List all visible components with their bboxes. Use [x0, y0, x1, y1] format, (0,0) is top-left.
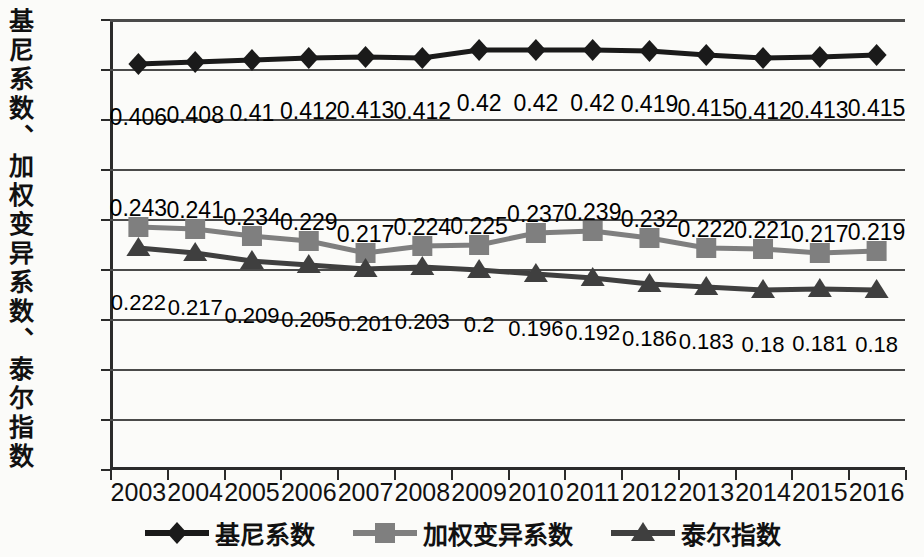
y-axis-tick [101, 469, 110, 471]
data-label: 0.415 [848, 95, 906, 122]
diamond-marker [299, 47, 319, 69]
data-label: 0.217 [791, 221, 849, 248]
y-axis-tick [101, 369, 110, 371]
y-axis-tick [101, 169, 110, 171]
legend-label: 基尼系数 [215, 515, 315, 551]
legend-item-2[interactable]: 加权变异系数 [351, 515, 573, 551]
diamond-marker [810, 46, 830, 68]
y-axis-tick [101, 269, 110, 271]
data-label: 0.243 [110, 195, 168, 222]
legend-item-1[interactable]: 基尼系数 [143, 515, 315, 551]
data-label: 0.2 [464, 312, 495, 338]
legend-key-square [351, 519, 419, 547]
data-label: 0.222 [677, 216, 735, 243]
data-label: 0.186 [622, 326, 677, 352]
y-axis-title: 基尼系数、加权变异系数、泰尔指数 [2, 8, 36, 508]
diamond-marker [128, 53, 148, 75]
diamond-marker [526, 39, 546, 61]
data-label: 0.205 [281, 307, 336, 333]
diamond-marker [753, 47, 773, 69]
data-label: 0.239 [564, 199, 622, 226]
data-label: 0.219 [848, 219, 906, 246]
y-axis-tick [101, 419, 110, 421]
diamond-marker [867, 44, 887, 66]
data-label: 0.241 [166, 197, 224, 224]
data-label: 0.413 [337, 97, 395, 124]
diamond-marker [469, 39, 489, 61]
data-label: 0.203 [395, 309, 450, 335]
legend-label: 加权变异系数 [423, 515, 573, 551]
data-label: 0.217 [337, 221, 395, 248]
data-label: 0.225 [450, 213, 508, 240]
data-label: 0.181 [792, 331, 847, 357]
diamond-marker [583, 39, 603, 61]
data-label: 0.415 [677, 95, 735, 122]
data-label: 0.224 [394, 214, 452, 241]
data-label: 0.412 [734, 98, 792, 125]
data-label: 0.234 [223, 204, 281, 231]
diamond-marker [696, 44, 716, 66]
legend-key-triangle [609, 519, 677, 547]
diamond-marker [242, 49, 262, 71]
data-label: 0.413 [791, 97, 849, 124]
data-label: 0.222 [111, 290, 166, 316]
diamond-marker [185, 51, 205, 73]
legend-item-3[interactable]: 泰尔指数 [609, 515, 781, 551]
x-axis-tick-label: 2016 [840, 478, 914, 507]
data-label: 0.18 [742, 332, 785, 358]
plot-area: 0.4060.4080.410.4120.4130.4120.420.420.4… [110, 20, 905, 470]
diamond-marker [412, 47, 432, 69]
y-axis-tick [101, 19, 110, 21]
data-label: 0.406 [110, 104, 168, 131]
data-label: 0.217 [168, 295, 223, 321]
data-label: 0.229 [280, 209, 338, 236]
data-label: 0.237 [507, 201, 565, 228]
data-label: 0.232 [621, 206, 679, 233]
diamond-marker [167, 522, 187, 544]
chart-legend: 基尼系数加权变异系数泰尔指数 [0, 515, 924, 551]
square-marker [375, 523, 395, 543]
data-label: 0.42 [570, 90, 615, 117]
data-label: 0.209 [224, 303, 279, 329]
data-label: 0.42 [457, 90, 502, 117]
data-label: 0.196 [508, 316, 563, 342]
chart-figure: 基尼系数、加权变异系数、泰尔指数 0.4060.4080.410.4120.41… [0, 0, 924, 557]
data-label: 0.221 [734, 217, 792, 244]
y-axis-tick [101, 69, 110, 71]
y-axis-tick [101, 319, 110, 321]
legend-label: 泰尔指数 [681, 515, 781, 551]
data-label: 0.183 [679, 329, 734, 355]
data-label: 0.192 [565, 320, 620, 346]
data-label: 0.412 [394, 98, 452, 125]
diamond-marker [639, 40, 659, 62]
legend-key-diamond [143, 519, 211, 547]
data-label: 0.419 [621, 91, 679, 118]
data-label: 0.41 [230, 100, 275, 127]
data-label: 0.408 [166, 102, 224, 129]
diamond-marker [356, 46, 376, 68]
series-layer [110, 20, 905, 470]
data-label: 0.42 [514, 90, 559, 117]
data-label: 0.412 [280, 98, 338, 125]
data-label: 0.18 [855, 332, 898, 358]
data-label: 0.201 [338, 311, 393, 337]
